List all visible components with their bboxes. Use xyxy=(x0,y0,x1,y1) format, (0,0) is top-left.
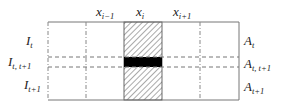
grid-diagram: xi−1 xi xi+1 It It, t+1 It+1 At At, t+1 … xyxy=(0,0,286,107)
black-band xyxy=(124,57,162,67)
row-label-left: It xyxy=(25,33,33,50)
row-label-left: It, t+1 xyxy=(7,54,31,71)
row-label-right: At+1 xyxy=(243,79,264,96)
column-label: xi xyxy=(135,4,145,21)
column-label: xi+1 xyxy=(172,4,191,21)
column-label: xi−1 xyxy=(95,4,114,21)
row-label-right: At, t+1 xyxy=(243,56,271,73)
row-label-right: At xyxy=(243,33,255,50)
row-label-left: It+1 xyxy=(23,77,41,94)
